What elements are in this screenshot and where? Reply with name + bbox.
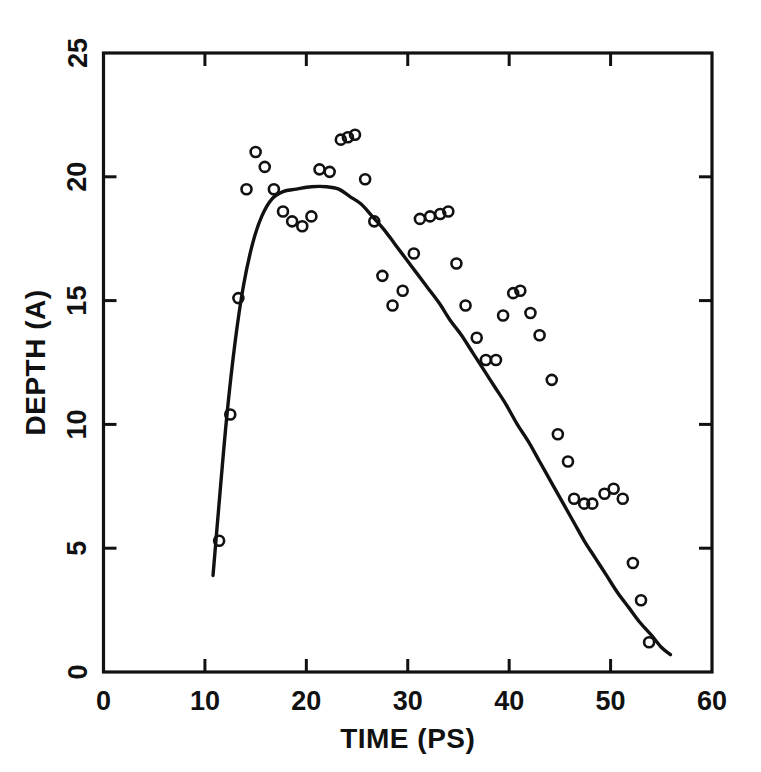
y-tick-label: 20 [63,162,93,192]
data-point-marker [461,301,471,311]
fitted-curve [213,186,670,654]
data-point-marker [287,216,297,226]
data-point-marker [498,310,508,320]
data-point-marker [242,184,252,194]
data-point-marker [644,637,654,647]
axes-box [104,53,713,672]
data-point-marker [297,221,307,231]
data-point-marker [269,184,279,194]
data-point-marker [569,494,579,504]
fit-curve-path [213,186,670,654]
scatter-plot: 0102030405060 0510152025 TIME (PS) DEPTH… [0,0,761,772]
y-tick-label: 10 [63,409,93,439]
x-tick-label: 60 [697,686,727,716]
x-axis-ticks [205,53,611,672]
data-point-marker [472,333,482,343]
data-point-marker [315,164,325,174]
y-tick-label: 5 [63,541,93,556]
data-point-marker [609,484,619,494]
y-axis-tick-labels: 0510152025 [63,38,93,680]
x-tick-label: 40 [494,686,524,716]
data-point-marker [425,211,435,221]
x-axis-tick-labels: 0102030405060 [96,686,727,716]
data-point-marker [306,211,316,221]
data-point-marker [535,330,545,340]
data-point-marker [525,308,535,318]
y-tick-label: 25 [63,38,93,68]
data-point-marker [628,558,638,568]
data-point-marker [260,162,270,172]
data-point-marker [409,249,419,259]
x-tick-label: 30 [393,686,423,716]
data-point-marker [553,429,563,439]
data-point-marker [491,355,501,365]
y-axis-title: DEPTH (A) [20,289,51,435]
x-tick-label: 0 [96,686,111,716]
y-axis-ticks [104,177,713,548]
data-point-marker [451,258,461,268]
data-points [214,130,654,648]
data-point-marker [618,494,628,504]
data-point-marker [415,214,425,224]
data-point-marker [636,595,646,605]
data-point-marker [377,271,387,281]
x-tick-label: 50 [596,686,626,716]
figure-container: 0102030405060 0510152025 TIME (PS) DEPTH… [0,0,761,772]
x-tick-label: 10 [190,686,220,716]
x-tick-label: 20 [291,686,321,716]
data-point-marker [481,355,491,365]
data-point-marker [563,457,573,467]
data-point-marker [547,375,557,385]
data-point-marker [325,167,335,177]
data-point-marker [360,174,370,184]
y-tick-label: 15 [63,286,93,316]
y-tick-label: 0 [63,664,93,679]
data-point-marker [251,147,261,157]
plot-frame [104,53,713,672]
x-axis-title: TIME (PS) [340,723,475,754]
data-point-marker [278,206,288,216]
data-point-marker [398,286,408,296]
data-point-marker [388,301,398,311]
